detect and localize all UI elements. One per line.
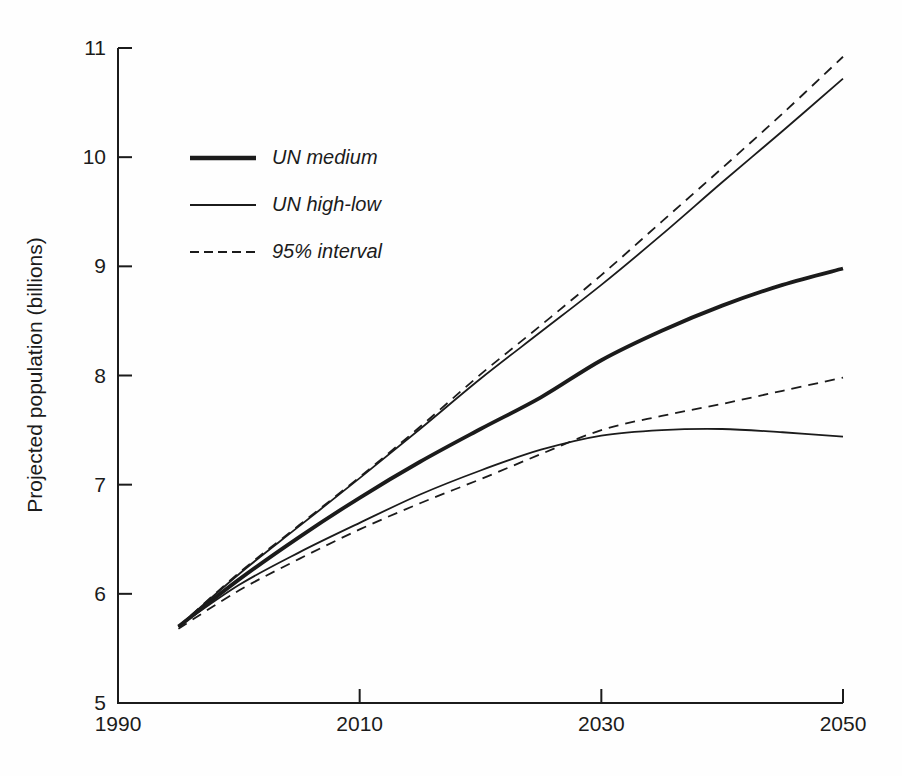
y-tick-label: 10: [50, 144, 106, 170]
population-projection-figure: Projected population (billions) UN mediu…: [0, 0, 902, 776]
thin-solid-line-icon: [190, 200, 256, 210]
y-tick-label: 7: [50, 472, 106, 498]
series-un-medium: [178, 269, 843, 627]
chart-canvas: [0, 0, 902, 776]
y-axis-title: Projected population (billions): [23, 237, 47, 513]
legend-item-95-interval: 95% interval: [190, 228, 382, 275]
legend-label-95-interval: 95% interval: [272, 240, 382, 263]
thick-solid-line-icon: [190, 153, 256, 163]
legend-label-un-high-low: UN high-low: [272, 193, 381, 216]
legend-item-un-high-low: UN high-low: [190, 181, 382, 228]
x-tick-label: 2010: [320, 711, 400, 737]
legend: UN medium UN high-low 95% interval: [190, 134, 382, 275]
y-tick-label: 9: [50, 253, 106, 279]
x-tick-label: 2050: [803, 711, 883, 737]
x-tick-label: 1990: [78, 711, 158, 737]
dashed-line-icon: [190, 247, 256, 257]
y-tick-label: 11: [50, 35, 106, 61]
y-tick-label: 8: [50, 363, 106, 389]
x-tick-label: 2030: [561, 711, 641, 737]
series-un-low: [178, 429, 843, 627]
legend-label-un-medium: UN medium: [272, 146, 378, 169]
legend-item-un-medium: UN medium: [190, 134, 382, 181]
y-tick-label: 6: [50, 581, 106, 607]
